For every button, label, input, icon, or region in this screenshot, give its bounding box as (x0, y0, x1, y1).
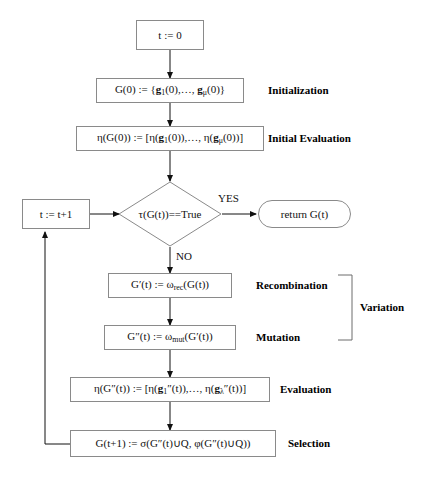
node-increment-t: t := t+1 (22, 199, 90, 229)
node-recombination-label: G′(t) := ωrec(G(t)) (131, 279, 209, 292)
stage-label-variation: Variation (360, 301, 404, 313)
stage-label-mutation: Mutation (256, 331, 300, 343)
edge-label-no: NO (176, 250, 192, 262)
node-mutation: G″(t) := ωmut(G′(t)) (104, 325, 236, 350)
stage-label-initial-evaluation: Initial Evaluation (268, 132, 351, 144)
node-return: return G(t) (258, 200, 351, 228)
node-termination-test: τ(G(t))==True (118, 181, 222, 247)
stage-label-evaluation: Evaluation (280, 383, 331, 395)
node-selection-label: G(t+1) := σ(G″(t)∪Q, φ(G″(t)∪Q)) (96, 438, 251, 449)
node-init-population: G(0) := {g1(0),…, gμ(0)} (96, 78, 244, 103)
node-selection: G(t+1) := σ(G″(t)∪Q, φ(G″(t)∪Q)) (70, 430, 276, 457)
node-init-t-label: t := 0 (158, 30, 181, 41)
node-init-population-label: G(0) := {g1(0),…, gμ(0)} (115, 84, 225, 97)
node-recombination: G′(t) := ωrec(G(t)) (108, 273, 232, 298)
flowchart-canvas: t := 0 G(0) := {g1(0),…, gμ(0)} η(G(0)) … (0, 0, 429, 483)
node-evaluation-label: η(G″(t)) := [η(g1″(t)),…, η(gλ″(t))] (94, 383, 246, 396)
node-increment-t-label: t := t+1 (40, 209, 73, 220)
node-mutation-label: G″(t) := ωmut(G′(t)) (127, 331, 212, 344)
stage-label-initialization: Initialization (268, 84, 329, 96)
stage-label-selection: Selection (288, 437, 330, 449)
edge-label-yes: YES (218, 192, 239, 204)
node-termination-test-label: τ(G(t))==True (139, 208, 202, 220)
node-init-t: t := 0 (136, 20, 204, 50)
node-return-label: return G(t) (281, 208, 328, 220)
stage-label-recombination: Recombination (256, 279, 328, 291)
node-initial-evaluation: η(G(0)) := [η(g1(0)),…, η(gμ(0))] (76, 126, 264, 151)
node-initial-evaluation-label: η(G(0)) := [η(g1(0)),…, η(gμ(0))] (97, 132, 243, 145)
node-evaluation: η(G″(t)) := [η(g1″(t)),…, η(gλ″(t))] (70, 377, 270, 402)
